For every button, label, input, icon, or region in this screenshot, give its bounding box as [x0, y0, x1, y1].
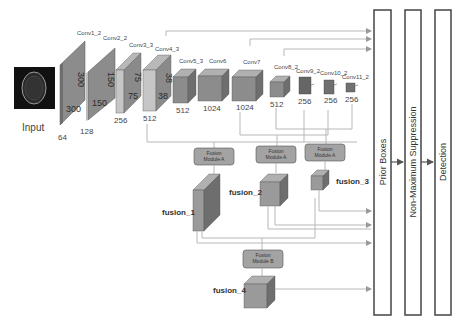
svg-text:Module A: Module A [266, 154, 288, 160]
conv7-label: Conv7 [243, 59, 261, 65]
fusion-3-block [311, 170, 329, 190]
conv9-2-label: Conv9_2 [296, 68, 321, 74]
conv3-3-channels: 256 [114, 116, 128, 125]
fusion-module-a-2: Fusion Module A [256, 146, 296, 163]
conv8-2-label: Conv8_2 [274, 64, 299, 70]
conv8-2-channels: 512 [270, 100, 284, 109]
fusion-1-block [193, 174, 220, 231]
conv4-3-label: Conv4_3 [155, 46, 180, 52]
conv7-block [232, 70, 263, 101]
conv5-3-channels: 512 [176, 106, 190, 115]
prior-boxes-stage: Prior Boxes [374, 10, 391, 315]
svg-text:Module A: Module A [315, 152, 337, 158]
conv2-2-label: Conv2_2 [103, 35, 128, 41]
conv6-channels: 1024 [203, 104, 221, 113]
conv10-2-block [324, 80, 337, 94]
conv1-2-label: Conv1_2 [77, 30, 102, 36]
svg-text:Module A: Module A [204, 156, 226, 162]
conv1-2-channels: 64 [58, 133, 67, 142]
top-connections [166, 31, 371, 56]
conv6-block [198, 69, 229, 101]
svg-text:Module B: Module B [252, 258, 274, 264]
detection-stage: Detection [435, 10, 451, 315]
conv4-3-size-b: 38 [164, 73, 174, 83]
conv3-3-size-a: 75 [128, 91, 138, 101]
conv11-2-channels: 256 [345, 95, 359, 104]
fusion-2-label: fusion_2 [229, 188, 262, 197]
conv2-2-size-a: 150 [92, 98, 107, 108]
fusion-3-label: fusion_3 [336, 177, 369, 186]
fusion-4-label: fusion_4 [213, 286, 246, 295]
conv3-3-block [116, 53, 141, 113]
conv8-2-block [270, 76, 290, 97]
conv1-2-size-b: 300 [76, 72, 86, 87]
conv4-3-size-a: 38 [158, 91, 168, 101]
fusion-4-block [244, 276, 275, 308]
conv3-3-label: Conv3_3 [129, 42, 154, 48]
fusion-module-b: Fusion Module B [243, 250, 283, 268]
conv4-3-channels: 512 [143, 114, 157, 123]
conv10-2-channels: 256 [324, 96, 338, 105]
fusion-1-label: fusion_1 [162, 208, 195, 217]
conv11-2-label: Conv11_2 [342, 74, 370, 80]
fusion-module-a-3: Fusion Module A [305, 144, 345, 161]
nms-label: Non-Maximum Suppression [408, 106, 418, 217]
nms-stage: Non-Maximum Suppression [405, 10, 421, 315]
input-image [14, 67, 55, 109]
prior-boxes-label: Prior Boxes [378, 138, 388, 185]
conv2-2-channels: 128 [80, 127, 94, 136]
input-label: Input [22, 122, 44, 133]
conv9-2-block [299, 77, 314, 94]
fusion-module-a-1: Fusion Module A [194, 148, 234, 165]
fusion-2-block [260, 174, 288, 206]
network-architecture-diagram: Input Conv1_2 300 300 64 Conv2_2 150 150… [0, 0, 464, 325]
conv7-channels: 1024 [236, 103, 254, 112]
detection-label: Detection [438, 143, 448, 181]
conv11-2-block [346, 83, 358, 92]
conv5-3-block [173, 69, 196, 103]
conv6-label: Conv6 [209, 58, 227, 64]
conv2-2-size-b: 150 [106, 72, 116, 87]
conv9-2-channels: 256 [298, 97, 312, 106]
conv1-2-size-a: 300 [66, 104, 81, 114]
conv3-3-size-b: 75 [133, 72, 143, 82]
conv5-3-label: Conv5_3 [179, 58, 204, 64]
